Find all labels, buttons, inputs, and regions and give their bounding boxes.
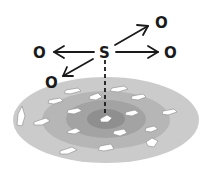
- target-label-bottom-left: O: [45, 74, 58, 92]
- target-label-top-right: O: [155, 14, 168, 32]
- target-label-right: O: [164, 44, 177, 62]
- center-label-s: S: [99, 44, 110, 62]
- target-label-left: O: [33, 44, 46, 62]
- diagram-canvas: S O O O O: [0, 0, 208, 172]
